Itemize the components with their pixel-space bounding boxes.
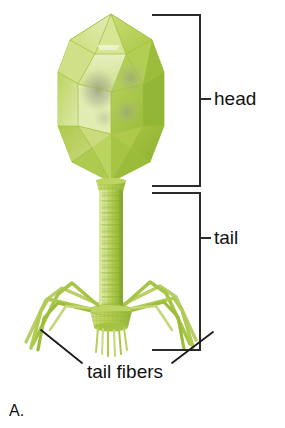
- dna-smudge: [93, 108, 115, 128]
- leader-line-right: [172, 332, 213, 363]
- label-tail-fibers: tail fibers: [87, 362, 163, 381]
- panel-letter: A.: [9, 403, 24, 419]
- phage-collar: [96, 178, 126, 192]
- bacteriophage-figure: head tail tail fibers A.: [0, 0, 285, 428]
- phage-baseplate: [90, 305, 132, 332]
- label-tail: tail: [214, 228, 238, 247]
- capsid-highlight: [97, 45, 120, 50]
- leader-line-left: [41, 330, 82, 363]
- phage-tail: [99, 190, 123, 314]
- label-head: head: [214, 89, 256, 108]
- dna-smudge: [113, 97, 141, 127]
- phage-head-capsid: [58, 14, 164, 182]
- tail-pins: [96, 328, 127, 356]
